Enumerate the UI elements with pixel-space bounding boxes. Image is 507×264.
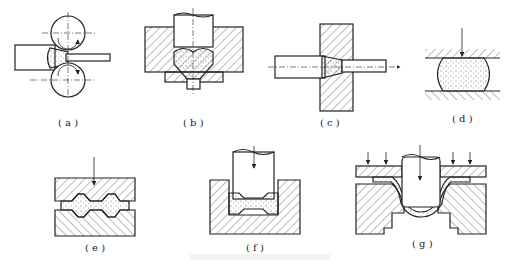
panel-a-label: ( a ) [58,117,78,128]
panel-c-label: ( c ) [320,117,340,128]
panel-d-upsetting [425,28,500,100]
figure-caption [190,254,330,260]
panel-d-label: ( d ) [452,113,473,124]
panel-b-extrusion [145,8,243,95]
panel-f-label: ( f ) [246,242,264,253]
panel-e-label: ( e ) [85,242,105,253]
forming-processes-diagram: ( a ) ( b ) ( c ) ( d ) ( e ) [0,0,507,264]
panel-g-deep-drawing [356,145,486,234]
panel-e-closed-die [55,157,135,236]
panel-f-punch-die [210,146,300,234]
panel-a-rolling [15,12,110,100]
panel-c-drawing [268,24,400,111]
panel-g-label: ( g ) [412,238,433,249]
panel-b-label: ( b ) [183,117,204,128]
